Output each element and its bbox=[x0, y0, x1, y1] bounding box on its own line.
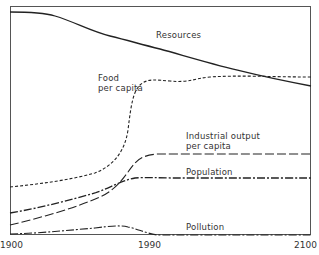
series-resources-line bbox=[10, 12, 311, 86]
plot-frame bbox=[11, 7, 311, 235]
series-food-per-capita-line bbox=[10, 76, 311, 187]
x-tick-1900: 1900 bbox=[0, 240, 23, 250]
series-pollution-line bbox=[10, 226, 311, 235]
label-food-line1: Food bbox=[98, 73, 119, 83]
label-resources: Resources bbox=[156, 30, 201, 40]
label-pollution: Pollution bbox=[186, 222, 224, 232]
x-tick-1990: 1990 bbox=[138, 240, 161, 250]
series-industrial-output-line bbox=[10, 154, 311, 225]
label-food-line2: per capita bbox=[98, 83, 143, 93]
label-industrial-line2: per capita bbox=[186, 141, 231, 151]
x-tick-2100: 2100 bbox=[294, 240, 317, 250]
label-industrial-line1: Industrial output bbox=[186, 131, 260, 141]
series-population-line bbox=[10, 178, 311, 213]
label-population: Population bbox=[186, 167, 233, 177]
